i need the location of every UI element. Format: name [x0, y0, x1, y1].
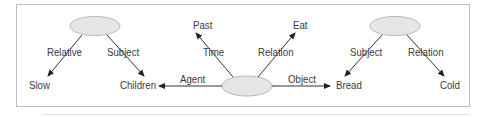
left-concept-node — [70, 17, 120, 36]
edge-label-relation-eat: Relation — [258, 47, 294, 58]
edge-label-time: Time — [203, 47, 224, 58]
edge-label-agent: Agent — [180, 74, 205, 85]
center-event-node — [222, 76, 272, 96]
node-label-slow: Slow — [29, 80, 50, 91]
edge-label-right-relation: Relation — [408, 47, 444, 58]
node-label-bread: Bread — [336, 80, 362, 91]
node-label-past: Past — [193, 20, 212, 31]
edge-label-left-relative: Relative — [47, 47, 82, 58]
right-concept-node — [370, 17, 420, 36]
edge-label-right-subject: Subject — [350, 47, 382, 58]
node-label-children: Children — [120, 80, 156, 91]
edge-label-object: Object — [288, 74, 316, 85]
semantic-network-graph — [0, 0, 484, 117]
node-label-eat: Eat — [293, 20, 308, 31]
node-label-cold: Cold — [440, 80, 460, 91]
edge-label-left-subject: Subject — [107, 47, 139, 58]
